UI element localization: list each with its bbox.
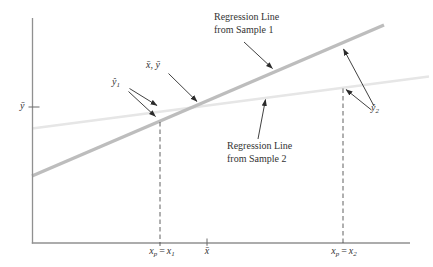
x2-tick-label: xp=x2: [331, 245, 357, 258]
yhat2-arrow-to-sample2-line: [346, 90, 372, 111]
sample2-label-line2: from Sample 2: [227, 153, 292, 166]
sample2-label-line1: Regression Line: [227, 140, 292, 153]
sample2-regression-line: [32, 77, 429, 129]
sample1-label-line2: from Sample 1: [214, 24, 279, 37]
sample1-label-line1: Regression Line: [214, 11, 279, 24]
ybar-axis-label: ȳ: [20, 100, 24, 113]
yhat1-arrow-to-sample2-line: [130, 89, 158, 106]
sample2-label-arrow: [258, 100, 266, 140]
x1-subscript-1: 1: [171, 250, 175, 258]
sample1-label-arrow: [244, 42, 273, 69]
sample1-regression-line: [32, 25, 384, 176]
sample2-label: Regression Line from Sample 2: [227, 140, 292, 165]
yhat1-subscript: 1: [116, 81, 120, 89]
yhat1-label: ŷ1: [112, 76, 120, 89]
x2-subscript-2: 2: [353, 250, 357, 258]
yhat2-label: ŷ2: [371, 102, 379, 115]
yhat2-arrow-to-sample1-line: [344, 49, 375, 106]
sample1-label: Regression Line from Sample 1: [214, 11, 279, 36]
yhat1-arrow-to-sample1-line: [129, 92, 156, 117]
regression-diagram: Regression Line from Sample 1 Regression…: [0, 0, 433, 267]
x1-tick-label: xp=x1: [149, 245, 175, 258]
diagram-canvas: [0, 0, 433, 267]
xbar-ybar-arrow: [169, 74, 198, 102]
xbar-ybar-label: x̄, ȳ: [146, 59, 160, 72]
xbar-tick-label: x̄: [205, 245, 209, 258]
yhat2-subscript: 2: [375, 107, 379, 115]
x2-equals: =: [339, 245, 349, 256]
x1-equals: =: [157, 245, 167, 256]
